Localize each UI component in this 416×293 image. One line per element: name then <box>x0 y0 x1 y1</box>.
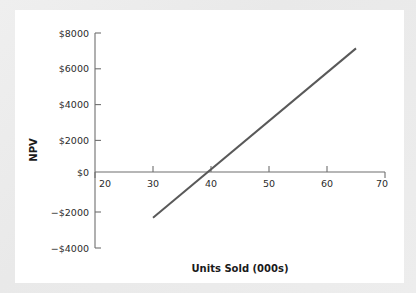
x-tick-label-50: 50 <box>263 178 275 189</box>
x-tick-label-20: 20 <box>99 178 111 189</box>
y-tick-label-8000: $8000 <box>59 28 89 39</box>
chart-plot-area: $8000 $6000 $4000 $2000 $0 −$2000 −$4000… <box>15 10 404 283</box>
x-tick-label-30: 30 <box>147 178 159 189</box>
y-tick-label-0: $0 <box>77 167 89 178</box>
y-axis-title: NPV <box>28 138 39 162</box>
figure-root: $8000 $6000 $4000 $2000 $0 −$2000 −$4000… <box>0 0 416 293</box>
y-tick-label-4000: $4000 <box>59 99 89 110</box>
chart-panel: $8000 $6000 $4000 $2000 $0 −$2000 −$4000… <box>15 10 404 283</box>
x-tick-label-60: 60 <box>321 178 333 189</box>
x-axis-title: Units Sold (000s) <box>192 263 289 274</box>
y-tick-label-neg2000: −$2000 <box>51 207 89 218</box>
y-tick-label-6000: $6000 <box>59 63 89 74</box>
x-tick-label-40: 40 <box>205 178 217 189</box>
y-tick-label-neg4000: −$4000 <box>51 243 89 254</box>
data-series-npv-line <box>153 48 356 217</box>
x-tick-label-70: 70 <box>376 178 388 189</box>
y-tick-label-2000: $2000 <box>59 135 89 146</box>
y-axis-ticks <box>95 33 101 248</box>
